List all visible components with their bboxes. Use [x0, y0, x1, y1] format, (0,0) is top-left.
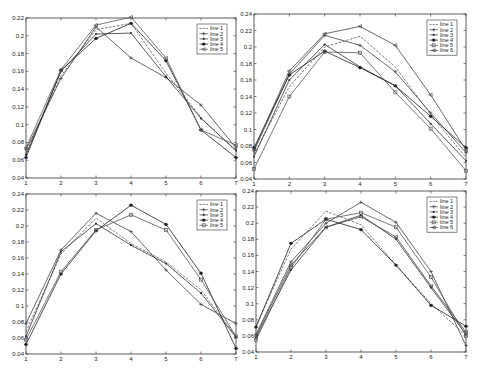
series-line-6 [254, 215, 468, 337]
x-tick-label: 2 [289, 354, 293, 360]
y-tick-label: 0.2 [246, 220, 255, 226]
x-tick-label: 1 [254, 354, 258, 360]
y-tick-label: 0.04 [242, 349, 254, 355]
y-tick-label: 0.24 [242, 188, 254, 194]
y-tick-label: 0.16 [242, 252, 254, 258]
x-tick-label: 4 [359, 354, 363, 360]
y-tick-label: 0.08 [242, 317, 254, 323]
legend-entry: line 6 [440, 224, 453, 230]
y-tick-label: 0.14 [242, 269, 254, 275]
x-tick-label: 3 [324, 354, 328, 360]
y-tick-label: 0.12 [242, 285, 254, 291]
x-tick-label: 6 [429, 354, 433, 360]
y-tick-label: 0.18 [242, 236, 254, 242]
chart-bottom-right: 0.040.060.080.10.120.140.160.180.20.220.… [0, 0, 480, 371]
legend: line 1line 2line 3line 4line 5line 6 [427, 197, 457, 232]
y-tick-label: 0.22 [242, 204, 254, 210]
y-tick-label: 0.06 [242, 333, 254, 339]
x-tick-label: 7 [464, 354, 468, 360]
y-tick-label: 0.1 [246, 301, 255, 307]
x-tick-label: 5 [394, 354, 398, 360]
